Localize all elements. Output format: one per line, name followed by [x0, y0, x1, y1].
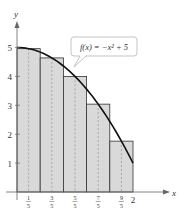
x-tick-numerator: 3 [50, 195, 53, 201]
x-tick-numerator: 9 [120, 195, 123, 201]
y-tick-label: 2 [8, 130, 13, 140]
x-ticks: 15355575952 [26, 195, 135, 209]
bars [17, 49, 133, 192]
x-tick-denominator: 5 [120, 203, 123, 209]
x-tick-numerator: 7 [97, 195, 100, 201]
y-tick-label: 4 [8, 72, 13, 82]
x-axis-arrow-icon [163, 190, 170, 195]
x-tick-numerator: 1 [27, 195, 30, 201]
x-axis-label: x [171, 188, 176, 198]
chart: x y 12345 15355575952 f(x) = −x² + 5 [0, 0, 182, 222]
x-tick-denominator: 5 [74, 203, 77, 209]
y-tick-label: 5 [8, 43, 13, 53]
x-tick-denominator: 5 [97, 203, 100, 209]
x-tick-label: 2 [131, 195, 136, 205]
x-tick-denominator: 5 [50, 203, 53, 209]
function-callout: f(x) = −x² + 5 [71, 37, 137, 67]
x-tick-numerator: 5 [74, 195, 77, 201]
y-tick-label: 3 [8, 101, 13, 111]
y-axis-label: y [13, 9, 18, 19]
y-tick-label: 1 [8, 159, 13, 169]
function-label: f(x) = −x² + 5 [80, 42, 128, 52]
x-tick-denominator: 5 [27, 203, 30, 209]
y-axis-arrow-icon [15, 21, 20, 28]
